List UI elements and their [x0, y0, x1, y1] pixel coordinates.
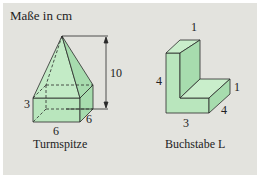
caption-turmspitze: Turmspitze — [33, 138, 87, 150]
dim-l-foot-height: 1 — [234, 81, 240, 93]
figure-drawing — [0, 0, 261, 180]
tower-spire-figure — [33, 36, 108, 122]
dim-l-depth: 4 — [221, 104, 227, 116]
dim-l-height: 4 — [156, 75, 162, 87]
dim-width: 6 — [53, 125, 59, 137]
caption-buchstabe-l: Buchstabe L — [165, 138, 225, 150]
dim-height-total: 10 — [110, 67, 122, 79]
dim-l-top-width: 1 — [191, 21, 197, 33]
units-title: Maße in cm — [10, 10, 72, 22]
dim-base-height: 3 — [24, 98, 30, 110]
dim-depth: 6 — [86, 113, 92, 125]
dim-l-bottom-width: 3 — [183, 117, 189, 129]
